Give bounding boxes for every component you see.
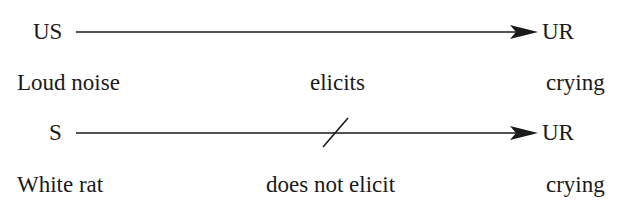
does-not-elicit-label: does not elicit: [266, 172, 395, 198]
crying-label: crying: [546, 70, 605, 96]
elicits-label: elicits: [310, 70, 365, 96]
crying-label-2: crying: [546, 172, 605, 198]
white-rat-label: White rat: [17, 172, 103, 198]
s-label: S: [49, 120, 62, 146]
loud-noise-label: Loud noise: [17, 70, 120, 96]
arrow-us-to-ur: [76, 25, 538, 39]
us-label: US: [33, 19, 62, 45]
ur-label: UR: [542, 19, 574, 45]
ur-label-2: UR: [542, 120, 574, 146]
arrow-s-to-ur: [76, 118, 538, 147]
